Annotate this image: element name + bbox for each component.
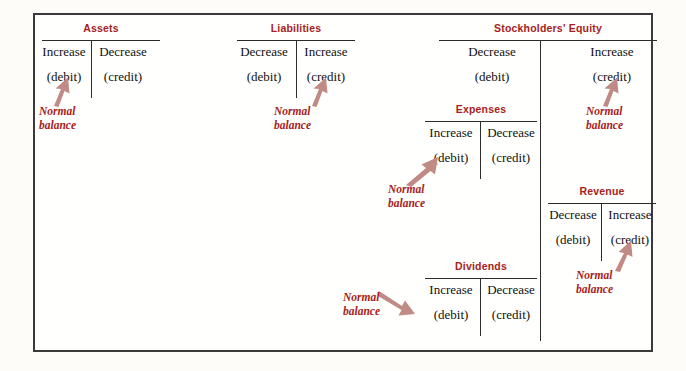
cell-entry: (debit) [234,70,294,84]
account-title-dividends: Dividends [425,260,537,272]
normal-balance-label-dividends: Normal balance [343,291,380,318]
nb-line-2: balance [586,119,623,133]
account-divider-revenue [601,203,602,261]
nb-line-1: Normal [576,269,613,283]
nb-line-1: Normal [39,105,76,119]
account-title-revenue: Revenue [548,185,656,197]
normal-balance-arrow-dividends [378,289,422,319]
cell-effect: Decrease [482,126,540,140]
account-title-expenses: Expenses [425,103,537,115]
cell-effect: Increase [423,126,479,140]
account-cell-stockholders-equity-debit: Decrease (debit) [446,45,538,83]
nb-line-1: Normal [388,183,425,197]
cell-effect: Decrease [545,208,601,222]
account-cell-assets-credit: Decrease (credit) [93,45,153,83]
cell-effect: Decrease [234,45,294,59]
account-divider-liabilities [296,40,297,98]
account-cell-expenses-credit: Decrease (credit) [482,126,540,164]
normal-balance-label-assets: Normal balance [39,105,76,132]
normal-balance-arrow-stockholders-equity [600,77,626,107]
nb-line-2: balance [39,119,76,133]
cell-entry: (credit) [482,151,540,165]
account-divider-expenses [480,121,481,179]
nb-line-1: Normal [343,291,380,305]
normal-balance-arrow-assets [51,77,77,107]
nb-line-1: Normal [274,105,311,119]
cell-effect: Increase [603,208,657,222]
account-rule-assets [42,40,160,41]
cell-effect: Decrease [446,45,538,59]
cell-entry: (debit) [545,233,601,247]
cell-effect: Increase [569,45,655,59]
diagram-frame: Assets Increase (debit) Decrease (credit… [33,13,653,352]
cell-entry: (debit) [423,308,479,322]
nb-line-2: balance [388,197,425,211]
account-rule-dividends [425,278,537,279]
account-rule-revenue [548,203,656,204]
nb-line-2: balance [343,305,380,319]
cell-effect: Decrease [93,45,153,59]
account-title-liabilities: Liabilities [237,22,355,34]
cell-entry: (debit) [446,70,538,84]
account-divider-stockholders-equity [540,40,541,341]
account-rule-stockholders-equity [439,40,657,41]
cell-effect: Decrease [482,283,540,297]
account-divider-assets [91,40,92,98]
account-title-stockholders-equity: Stockholders' Equity [439,22,657,34]
normal-balance-label-revenue: Normal balance [576,269,613,296]
nb-line-2: balance [274,119,311,133]
account-divider-dividends [480,278,481,336]
cell-entry: (credit) [482,308,540,322]
cell-entry: (credit) [93,70,153,84]
cell-effect: Increase [37,45,91,59]
normal-balance-arrow-revenue [613,240,641,272]
account-cell-liabilities-debit: Decrease (debit) [234,45,294,83]
account-cell-dividends-debit: Increase (debit) [423,283,479,321]
normal-balance-label-stockholders-equity: Normal balance [586,105,623,132]
normal-balance-label-liabilities: Normal balance [274,105,311,132]
nb-line-2: balance [576,283,613,297]
account-title-assets: Assets [42,22,160,34]
cell-effect: Increase [298,45,354,59]
t-account-diagram: Assets Increase (debit) Decrease (credit… [0,0,686,371]
account-cell-revenue-debit: Decrease (debit) [545,208,601,246]
account-rule-expenses [425,121,537,122]
nb-line-1: Normal [586,105,623,119]
normal-balance-arrow-liabilities [309,77,335,107]
cell-effect: Increase [423,283,479,297]
account-cell-dividends-credit: Decrease (credit) [482,283,540,321]
normal-balance-label-expenses: Normal balance [388,183,425,210]
